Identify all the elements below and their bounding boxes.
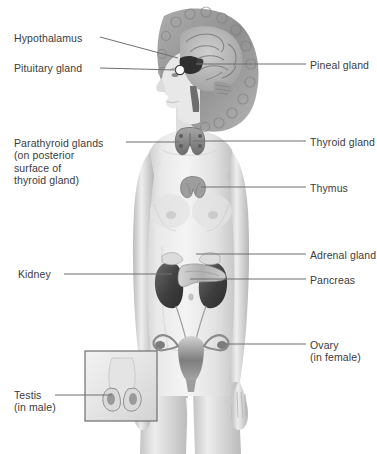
label-pineal-gland: Pineal gland — [310, 59, 369, 71]
head-with-brain — [156, 7, 258, 132]
pituitary-organ — [175, 65, 184, 74]
label-parathyroid-glands-subline-2: thyroid gland) — [14, 174, 103, 186]
label-thyroid-gland-text: Thyroid gland — [310, 136, 375, 148]
label-thyroid-gland: Thyroid gland — [310, 136, 375, 148]
label-ovary-subline-0: (in female) — [310, 351, 361, 363]
label-pituitary-gland-text: Pituitary gland — [14, 62, 82, 74]
label-ovary-text: Ovary — [310, 339, 339, 351]
label-thymus-text: Thymus — [310, 182, 348, 194]
ovary-organ-right — [217, 341, 227, 349]
label-kidney: Kidney — [18, 268, 51, 280]
label-pancreas: Pancreas — [310, 274, 355, 286]
label-pituitary-gland: Pituitary gland — [14, 62, 82, 74]
ovary-organ-left — [155, 341, 165, 349]
label-pineal-gland-text: Pineal gland — [310, 59, 369, 71]
label-testis: Testis(in male) — [14, 389, 56, 414]
label-testis-subline-0: (in male) — [14, 401, 56, 413]
label-parathyroid-glands-text: Parathyroid glands — [14, 137, 103, 149]
label-hypothalamus-text: Hypothalamus — [14, 32, 82, 44]
label-parathyroid-glands-subline-1: surface of — [14, 162, 103, 174]
label-adrenal-gland: Adrenal gland — [310, 249, 376, 261]
label-thymus: Thymus — [310, 182, 348, 194]
label-adrenal-gland-text: Adrenal gland — [310, 249, 376, 261]
label-parathyroid-glands-subline-0: (on posterior — [14, 149, 103, 161]
testis-inset — [85, 351, 157, 421]
label-parathyroid-glands: Parathyroid glands(on posteriorsurface o… — [14, 137, 103, 186]
label-testis-text: Testis — [14, 389, 41, 401]
testis-organ-right — [129, 393, 137, 405]
label-ovary: Ovary(in female) — [310, 339, 361, 364]
label-kidney-text: Kidney — [18, 268, 51, 280]
label-pancreas-text: Pancreas — [310, 274, 355, 286]
endocrine-system-diagram: HypothalamusPituitary glandParathyroid g… — [0, 0, 377, 454]
navel — [188, 293, 193, 300]
label-hypothalamus: Hypothalamus — [14, 32, 82, 44]
